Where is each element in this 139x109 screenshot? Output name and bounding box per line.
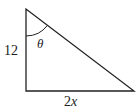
vertical-side-label: 12 (4, 43, 18, 58)
triangle-diagram: 12 θ 2x (0, 0, 139, 109)
triangle-figure: 12 θ 2x (0, 0, 139, 109)
base-side-label: 2x (64, 94, 78, 109)
angle-theta-label: θ (37, 36, 44, 51)
angle-theta-arc (26, 25, 48, 36)
base-coefficient: 2 (64, 94, 71, 109)
base-variable: x (70, 94, 78, 109)
